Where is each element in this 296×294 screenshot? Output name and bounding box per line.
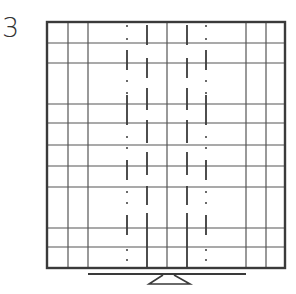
grid-row-lines [47, 43, 285, 247]
patterned-column [126, 25, 128, 261]
patterned-column [205, 25, 207, 261]
stand-foot [149, 275, 190, 284]
grid-screen-diagram [0, 0, 296, 294]
screen-stand [88, 274, 246, 284]
